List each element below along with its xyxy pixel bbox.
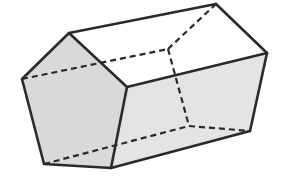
- faces: [22, 4, 267, 168]
- pentagonal-prism-diagram: [0, 0, 286, 177]
